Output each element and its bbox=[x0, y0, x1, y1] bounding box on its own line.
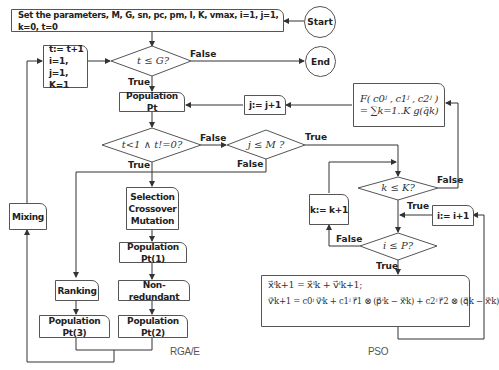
update-counters-box: t:= t+1 i=1, j=1, K=1 bbox=[43, 45, 88, 88]
label-false-t-le-g: False bbox=[190, 49, 216, 59]
selection-label: Selection bbox=[130, 191, 174, 203]
pso-velocity-equation: v⃗ⁱk+1 = c0ʲ v⃗ⁱk + c1ʲ r⃗1 ⊗ (p⃗ⁱk − x⃗… bbox=[268, 293, 499, 310]
pso-update-box: x⃗ⁱk+1 = x⃗ⁱk + v⃗ⁱk+1; v⃗ⁱk+1 = c0ʲ v⃗ⁱ… bbox=[261, 275, 470, 327]
population-pt-box: Population Pt bbox=[119, 92, 185, 112]
label-false-i-le-p: False bbox=[336, 234, 362, 244]
cond-i-le-p-text: i ≤ P? bbox=[374, 240, 422, 251]
label-false-j-le-m: False bbox=[237, 159, 263, 169]
ranking-box: Ranking bbox=[55, 280, 99, 301]
mixing-box: Mixing bbox=[9, 203, 47, 230]
label-true-i-le-p: True bbox=[376, 261, 398, 271]
population-pt1-box: Population Pt(1) bbox=[119, 242, 187, 263]
edge-mixing-update bbox=[27, 61, 42, 203]
update-t-line2: i=1, j=1, bbox=[49, 55, 87, 79]
label-false-t-lt-1: False bbox=[200, 133, 226, 143]
fitness-line2: = ∑k=1..K g(q̄k) bbox=[360, 105, 439, 117]
crossover-label: Crossover bbox=[129, 203, 177, 215]
i-increment-box: i:= i+1 bbox=[432, 205, 474, 226]
cond-t-le-g-text: t ≤ G? bbox=[131, 55, 175, 66]
j-increment-box: j:= j+1 bbox=[244, 95, 286, 115]
fitness-line1: F( c0ʲ , c1ʲ , c2ʲ ) bbox=[360, 93, 438, 105]
init-parameters-box: Set the parameters, M, G, sn, pc, pm, I,… bbox=[11, 9, 284, 32]
cond-k-le-k-text: k ≤ K? bbox=[372, 182, 424, 193]
rga-caption: RGA/E bbox=[170, 346, 200, 357]
label-true-t-lt-1: True bbox=[128, 160, 150, 170]
population-pt3-box: Population Pt(3) bbox=[39, 315, 110, 338]
selection-crossover-mutation-box: Selection Crossover Mutation bbox=[126, 187, 179, 230]
update-t-line3: K=1 bbox=[49, 79, 69, 91]
pso-position-equation: x⃗ⁱk+1 = x⃗ⁱk + v⃗ⁱk+1; bbox=[268, 276, 362, 293]
cond-t-lt-1-text: t<1 ∧ t!=0? bbox=[118, 139, 186, 150]
k-increment-box: k:= k+1 bbox=[309, 194, 349, 225]
edge-merge bbox=[76, 338, 152, 350]
population-pt2-box: Population Pt(2) bbox=[118, 315, 188, 338]
non-redundant-box: Non-redundant bbox=[118, 280, 190, 301]
label-true-k-le-k: True bbox=[407, 201, 429, 211]
start-node: Start bbox=[304, 6, 336, 38]
label-true-t-le-g: True bbox=[128, 77, 150, 87]
label-false-k-le-k: False bbox=[437, 175, 463, 185]
label-true-j-le-m: True bbox=[305, 132, 327, 142]
mutation-label: Mutation bbox=[131, 215, 174, 227]
pso-caption: PSO bbox=[368, 346, 388, 357]
cond-j-le-m-text: j ≤ M ? bbox=[240, 139, 292, 150]
fitness-function-box: F( c0ʲ , c1ʲ , c2ʲ ) = ∑k=1..K g(q̄k) bbox=[353, 83, 445, 127]
edge-condj-condk bbox=[305, 145, 398, 176]
update-t-line1: t:= t+1 bbox=[49, 43, 84, 55]
end-node: End bbox=[305, 46, 336, 77]
